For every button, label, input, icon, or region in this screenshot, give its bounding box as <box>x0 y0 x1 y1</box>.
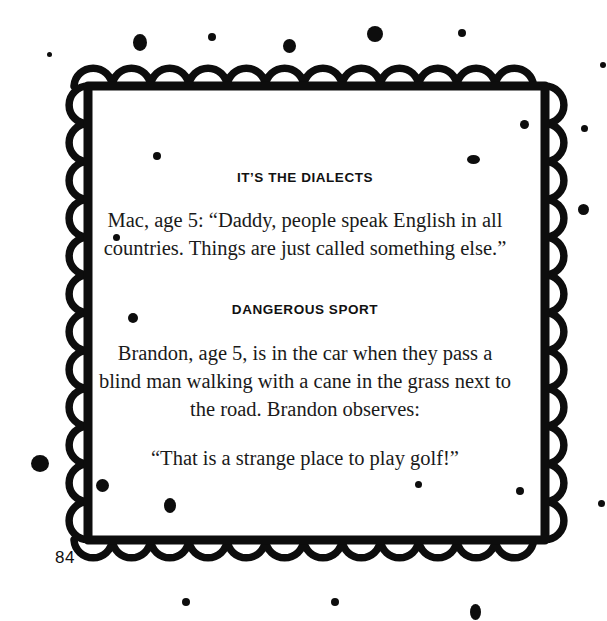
ink-speck <box>600 62 606 68</box>
ink-speck <box>47 52 52 57</box>
ink-speck <box>331 598 339 606</box>
ink-speck <box>578 204 589 215</box>
ink-speck <box>516 487 524 495</box>
ink-speck <box>133 34 147 51</box>
entry-quote-dangerous-sport: “That is a strange place to play golf!” <box>95 444 515 472</box>
ink-speck <box>598 500 605 507</box>
ink-speck <box>164 498 176 513</box>
ink-speck <box>153 152 161 160</box>
ink-speck <box>96 479 109 492</box>
ink-speck <box>467 155 480 164</box>
entry-heading-dialects: IT’S THE DIALECTS <box>95 170 515 185</box>
ink-speck <box>520 120 529 129</box>
ink-speck <box>458 29 466 37</box>
ink-speck <box>208 33 216 41</box>
ink-speck <box>283 39 296 53</box>
ink-speck <box>31 455 49 472</box>
ink-speck <box>415 481 422 488</box>
ink-speck <box>367 26 383 42</box>
ink-speck <box>470 604 481 620</box>
ink-speck <box>182 598 190 606</box>
page-number: 84 <box>55 548 75 568</box>
page-content: IT’S THE DIALECTS Mac, age 5: “Daddy, pe… <box>95 170 515 472</box>
book-page: IT’S THE DIALECTS Mac, age 5: “Daddy, pe… <box>0 0 607 621</box>
ink-speck <box>581 125 588 132</box>
entry-body-dangerous-sport: Brandon, age 5, is in the car when they … <box>95 339 515 423</box>
entry-heading-dangerous-sport: DANGEROUS SPORT <box>95 302 515 317</box>
entry-body-dialects: Mac, age 5: “Daddy, people speak English… <box>95 206 515 262</box>
